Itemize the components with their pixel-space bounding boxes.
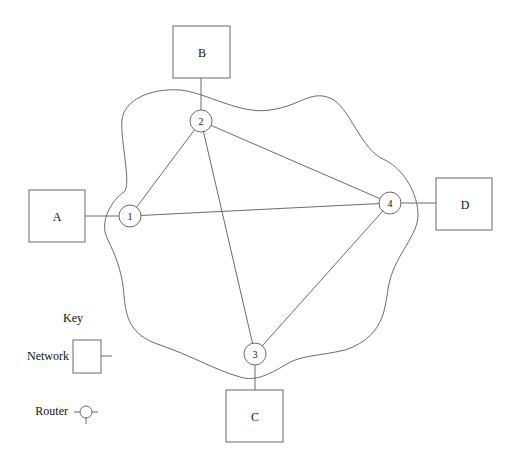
network-label-D: D <box>461 198 470 212</box>
network-label-C: C <box>251 410 259 424</box>
legend-network-icon <box>73 340 101 373</box>
router-links <box>130 121 390 354</box>
link-1-4 <box>130 203 390 216</box>
network-B: B <box>173 26 230 78</box>
legend-title: Key <box>63 311 83 325</box>
router-label-3: 3 <box>253 349 258 360</box>
network-C: C <box>226 390 283 442</box>
legend: Key Network Router <box>27 311 112 424</box>
link-2-4 <box>201 121 390 203</box>
router-label-4: 4 <box>388 198 393 209</box>
network-D: D <box>436 178 492 230</box>
network-links <box>85 78 436 390</box>
link-3-4 <box>255 203 390 354</box>
link-2-3 <box>201 121 255 354</box>
router-2: 2 <box>190 110 212 132</box>
router-4: 4 <box>379 192 401 214</box>
network-diagram: A B C D 1 2 3 4 Key Network Router <box>0 0 517 468</box>
router-label-1: 1 <box>128 211 133 222</box>
legend-router-label: Router <box>35 404 68 418</box>
legend-network-label: Network <box>27 349 69 363</box>
network-label-B: B <box>198 46 206 60</box>
router-1: 1 <box>119 205 141 227</box>
router-label-2: 2 <box>199 116 204 127</box>
link-1-2 <box>130 121 201 216</box>
network-label-A: A <box>53 210 62 224</box>
network-cloud-outline <box>105 90 418 379</box>
network-A: A <box>29 190 85 242</box>
router-3: 3 <box>244 343 266 365</box>
legend-router-icon <box>74 406 98 424</box>
